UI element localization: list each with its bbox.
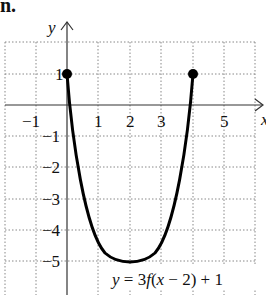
- x-axis-label: x: [260, 110, 266, 129]
- svg-text:5: 5: [220, 112, 229, 131]
- svg-text:−1: −1: [42, 127, 60, 146]
- svg-text:−5: −5: [42, 252, 60, 271]
- endpoint-left: [62, 69, 72, 79]
- svg-text:3: 3: [157, 112, 166, 131]
- svg-text:−1: −1: [22, 112, 40, 131]
- endpoint-right: [188, 69, 198, 79]
- svg-text:−3: −3: [42, 190, 60, 209]
- svg-text:2: 2: [126, 112, 135, 131]
- y-tick-labels: 1 −1 −2 −3 −4 −5: [42, 65, 64, 271]
- equation-label: y = 3f(x − 2) + 1: [110, 270, 223, 289]
- graph: y x −1 1 2 3 5 1 −1 −2 −3 −4 −5 y = 3f(x…: [0, 0, 266, 295]
- svg-text:1: 1: [94, 112, 103, 131]
- svg-text:−4: −4: [42, 221, 61, 240]
- y-axis-label: y: [46, 18, 56, 37]
- svg-text:−2: −2: [42, 158, 60, 177]
